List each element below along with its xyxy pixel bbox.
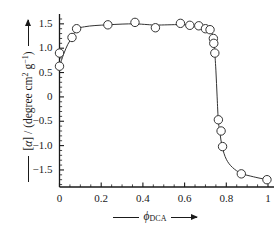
x-tick-label: 0.2 bbox=[81, 193, 121, 204]
y-tick-label: 0 bbox=[47, 91, 53, 102]
y-axis-label: [α] / (degree cm2 g−1) bbox=[19, 11, 37, 191]
chart-figure: 1.51.00.50−0.5−1.0−1.5 00.20.40.60.81 [α… bbox=[0, 0, 279, 232]
y-axis-title-text: [α] / (degree cm2 g−1) bbox=[22, 51, 34, 150]
y-tick-label: 1.0 bbox=[39, 42, 53, 53]
x-axis-arrow bbox=[171, 217, 197, 218]
y-tick-label: 1.5 bbox=[39, 18, 53, 29]
data-markers bbox=[55, 18, 271, 184]
y-axis-lead-rule bbox=[28, 156, 29, 182]
y-axis-arrow bbox=[28, 20, 29, 46]
x-tick-label: 1 bbox=[248, 193, 279, 204]
x-axis-title-text: ϕDCA bbox=[144, 211, 167, 223]
major-ticks bbox=[60, 24, 269, 187]
y-tick-label: 0.5 bbox=[39, 67, 53, 78]
x-tick-label: 0.4 bbox=[123, 193, 163, 204]
x-axis-lead-rule bbox=[113, 217, 139, 218]
x-tick-label: 0.6 bbox=[165, 193, 205, 204]
x-tick-label: 0.8 bbox=[206, 193, 246, 204]
x-tick-label: 0 bbox=[40, 193, 80, 204]
axis-lines bbox=[60, 14, 275, 187]
fit-curve bbox=[60, 24, 267, 180]
x-axis-label: ϕDCA bbox=[75, 208, 235, 226]
